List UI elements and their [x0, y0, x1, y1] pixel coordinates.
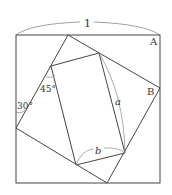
outer-square: [16, 35, 160, 183]
length-b-label: b: [95, 145, 101, 156]
length-b-arc-right: [104, 148, 125, 153]
angle-45-label: 45°: [40, 84, 56, 94]
side-length-arc-right: [94, 22, 160, 35]
side-length-arc-left: [16, 22, 80, 35]
side-length-label: 1: [84, 17, 91, 30]
rotated-square: [16, 35, 160, 183]
angle-30-label: 30°: [17, 101, 33, 111]
corner-a-label: A: [149, 36, 158, 47]
geometry-diagram: 1 A B 30° 45° a b: [0, 0, 172, 195]
length-a-label: a: [115, 96, 121, 107]
corner-b-label: B: [147, 86, 154, 97]
